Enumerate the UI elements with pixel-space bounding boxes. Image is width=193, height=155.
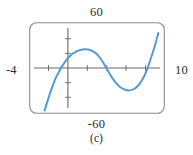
plot-area — [29, 22, 165, 114]
window-xmax-label: 10 — [175, 64, 188, 77]
window-ymin-label: -60 — [0, 118, 193, 131]
window-ymax-label: 60 — [0, 6, 193, 19]
calculator-viewing-window — [29, 22, 165, 114]
figure-caption: (c) — [0, 133, 193, 145]
window-xmin-label: -4 — [6, 64, 17, 77]
